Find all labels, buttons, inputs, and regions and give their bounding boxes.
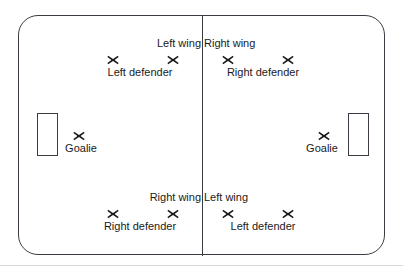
player-label: Left defender (231, 220, 296, 233)
player-label: Goalie (306, 142, 338, 155)
center-line (202, 15, 203, 256)
player-label: Right wing (150, 191, 201, 204)
goal-net-right (348, 113, 369, 156)
x-marker-icon (165, 52, 181, 68)
player-label: Left wing (204, 191, 248, 204)
footer-divider (0, 265, 403, 266)
rink-diagram: Left defenderLeft wingGoalieRight defend… (0, 0, 403, 272)
player-label: Right wing (204, 37, 255, 50)
x-marker-icon (165, 206, 181, 222)
player-label: Goalie (65, 142, 97, 155)
player-label: Left wing (157, 37, 201, 50)
player-label: Right defender (227, 66, 299, 79)
player-label: Left defender (108, 66, 173, 79)
goal-net-left (37, 113, 58, 156)
